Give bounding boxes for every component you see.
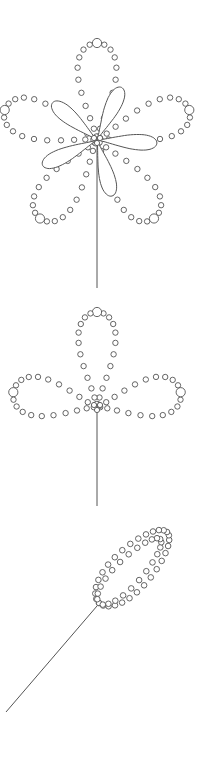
bead: [137, 218, 142, 223]
bead: [100, 386, 105, 391]
bead: [146, 101, 151, 106]
wire-petal: [97, 87, 125, 140]
bead: [117, 559, 123, 565]
bead: [87, 42, 92, 47]
three-petal-bud: [9, 307, 186, 506]
bead: [157, 136, 162, 141]
bead: [150, 529, 156, 535]
bead: [134, 108, 139, 113]
bead: [83, 137, 88, 142]
bead: [100, 602, 106, 608]
bead: [51, 413, 56, 418]
bead: [95, 596, 101, 602]
bead: [113, 330, 118, 335]
bead: [76, 340, 81, 345]
bead-loop: [9, 374, 97, 419]
bead: [115, 197, 120, 202]
bead: [148, 575, 154, 581]
bead: [76, 330, 81, 335]
bead: [106, 601, 112, 607]
bead: [109, 567, 115, 573]
bead: [67, 388, 72, 393]
large-bead: [176, 388, 185, 397]
bead: [127, 595, 133, 601]
bead: [132, 382, 137, 387]
bead: [4, 122, 9, 127]
bead: [170, 377, 175, 382]
bead: [83, 103, 88, 108]
bead: [144, 568, 150, 574]
bead: [113, 151, 118, 156]
bead: [13, 97, 18, 102]
bead: [96, 577, 102, 583]
large-bead: [9, 388, 18, 397]
bead: [102, 42, 107, 47]
bead: [167, 95, 172, 100]
bead: [114, 408, 119, 413]
bead: [91, 126, 96, 131]
bead: [150, 560, 156, 566]
bead: [108, 47, 113, 52]
bead: [158, 545, 164, 551]
bead: [20, 409, 25, 414]
large-bead: [92, 307, 101, 316]
bead: [142, 540, 148, 546]
bead-loop: [97, 374, 185, 419]
bead: [163, 374, 168, 379]
bead: [29, 412, 34, 417]
bead: [183, 101, 188, 106]
bead: [112, 55, 117, 60]
bead-loop: [0, 95, 97, 143]
bead: [136, 536, 142, 542]
bead: [175, 404, 180, 409]
bead: [19, 377, 24, 382]
bead: [178, 397, 183, 402]
bead: [138, 413, 143, 418]
bead: [153, 374, 158, 379]
bead: [145, 175, 150, 180]
bead: [85, 400, 90, 405]
bead: [128, 541, 134, 547]
bead: [44, 219, 49, 224]
bead: [149, 537, 155, 543]
bead: [178, 129, 183, 134]
bead: [45, 138, 50, 143]
bead: [159, 558, 165, 564]
stem-wire: [6, 606, 97, 712]
large-bead: [35, 214, 44, 223]
bead: [144, 219, 149, 224]
bead: [185, 122, 190, 127]
bead: [104, 131, 109, 136]
bead: [158, 203, 163, 208]
bead: [120, 593, 126, 599]
bead: [105, 562, 111, 568]
bead: [63, 410, 68, 415]
bead: [43, 101, 48, 106]
beaded-leaf: [6, 527, 172, 712]
bead: [78, 321, 83, 326]
bead: [156, 527, 162, 533]
bead: [60, 215, 65, 220]
bead: [31, 194, 36, 199]
bead: [87, 116, 92, 121]
bead: [163, 550, 169, 556]
bead: [112, 554, 118, 560]
center-bead: [97, 402, 102, 407]
bead: [124, 158, 129, 163]
bead: [175, 383, 180, 388]
bead: [143, 532, 149, 538]
bead: [156, 210, 161, 215]
bead: [77, 55, 82, 60]
bead: [71, 137, 76, 142]
bead: [58, 138, 63, 143]
bead: [81, 363, 86, 368]
bead: [84, 406, 89, 411]
bead: [121, 207, 126, 212]
bead: [87, 159, 92, 164]
bead: [98, 584, 104, 590]
bead: [135, 166, 140, 171]
bead: [75, 65, 80, 70]
bead: [31, 136, 36, 141]
bead: [89, 386, 94, 391]
center-bead: [97, 135, 102, 140]
